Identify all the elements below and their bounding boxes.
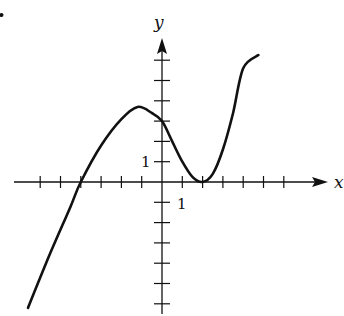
y-axis: y <box>153 12 170 314</box>
x-axis: x <box>14 172 344 192</box>
y-tick-label-1: 1 <box>141 153 151 171</box>
x-axis-label: x <box>334 172 344 192</box>
y-axis-label: y <box>153 12 164 32</box>
figure-marker-dot <box>0 13 4 17</box>
x-tick-label-1: 1 <box>177 195 187 213</box>
function-graph: x y 1 1 <box>0 0 344 316</box>
